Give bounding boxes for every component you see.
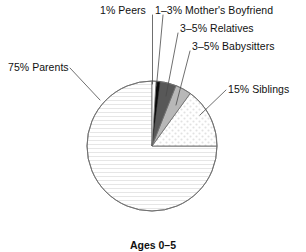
pie-chart-figure: 1% Peers 1–3% Mother's Boyfriend 3–5% Re… bbox=[0, 0, 306, 252]
leader-line-parents bbox=[70, 68, 100, 100]
chart-caption: Ages 0–5 bbox=[0, 239, 306, 251]
pie-label-babysitters: 3–5% Babysitters bbox=[192, 40, 275, 52]
pie-chart-svg bbox=[0, 0, 306, 252]
leader-line-boyfriend bbox=[157, 15, 164, 86]
pie-label-parents: 75% Parents bbox=[8, 61, 69, 73]
pie-label-relatives: 3–5% Relatives bbox=[180, 22, 254, 34]
pie-label-mothers-boyfriend: 1–3% Mother's Boyfriend bbox=[155, 4, 273, 16]
pie-label-siblings: 15% Siblings bbox=[228, 83, 289, 95]
pie-label-peers: 1% Peers bbox=[100, 4, 146, 16]
leader-line-siblings bbox=[200, 90, 226, 115]
